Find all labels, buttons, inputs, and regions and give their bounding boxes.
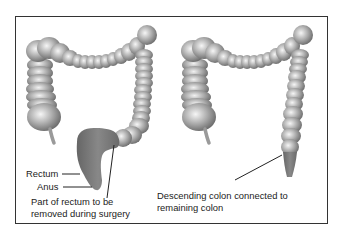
label-removed-line2: removed during surgery — [31, 208, 130, 219]
descending-colon-after — [281, 49, 309, 177]
label-connected-line1: Descending colon connected to — [157, 190, 288, 201]
label-connected-line2: remaining colon — [157, 202, 223, 213]
label-rectum: Rectum — [26, 168, 58, 179]
ascending-colon-before — [26, 58, 61, 143]
rectum-to-remove — [77, 128, 120, 190]
colon-after — [181, 25, 313, 180]
ascending-colon-after — [181, 58, 216, 143]
label-removed-line1: Part of rectum to be — [31, 196, 113, 207]
label-anus: Anus — [37, 181, 58, 192]
